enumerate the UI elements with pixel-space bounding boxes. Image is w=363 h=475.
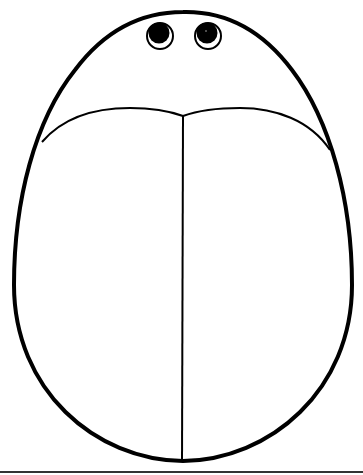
wing-divider-line [182,116,183,461]
beetle-drawing [0,0,363,475]
right-eye [195,23,221,50]
left-eye [147,23,173,50]
